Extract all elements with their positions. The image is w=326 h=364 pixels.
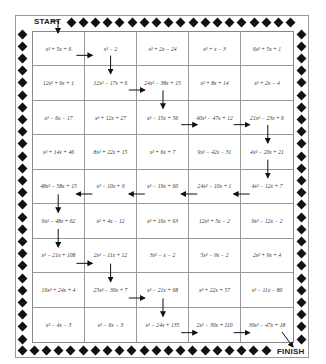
start-arrow-icon (52, 21, 58, 33)
path-arrows (0, 0, 326, 364)
finish-arrow-icon (282, 332, 293, 347)
